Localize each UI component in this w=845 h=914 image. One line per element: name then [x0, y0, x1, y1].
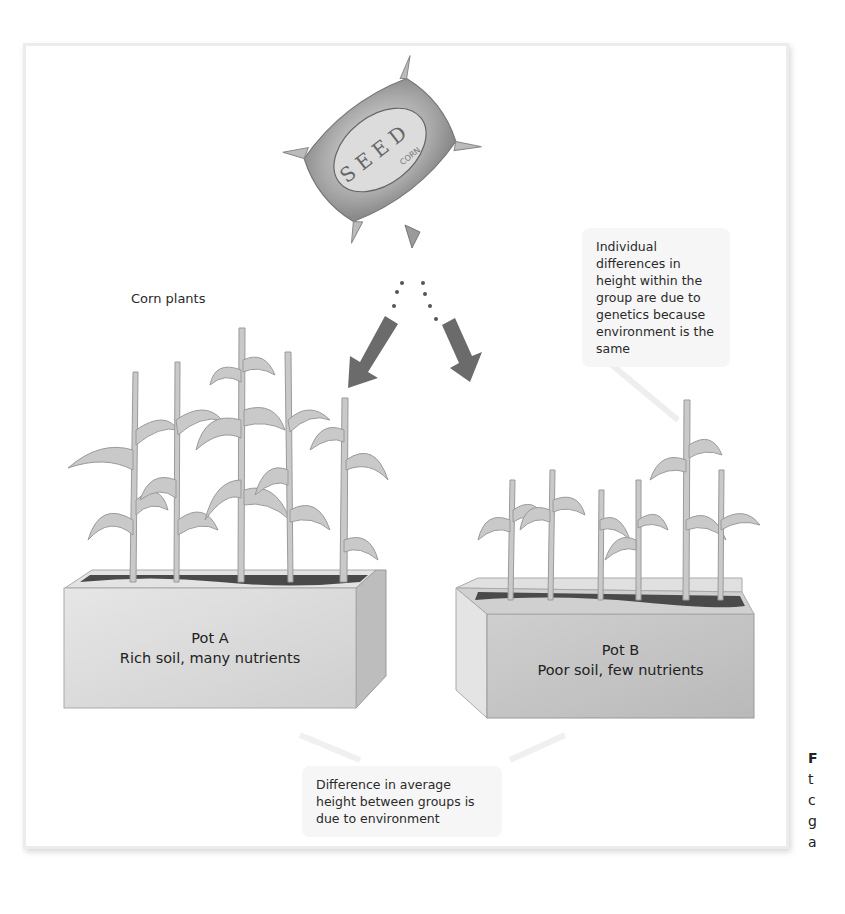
arrow-left-icon — [348, 316, 398, 388]
figure-caption-fragment: F t c g a — [808, 748, 818, 853]
seed-trail — [392, 281, 438, 321]
environment-callout: Difference in average height between gro… — [302, 766, 502, 837]
arrow-right-icon — [442, 318, 482, 382]
genetics-callout: Individual differences in height within … — [582, 228, 730, 367]
pot-a-name: Pot A — [64, 628, 356, 648]
seed-bag-icon: S E E D CORN — [281, 54, 481, 247]
pot-a-description: Rich soil, many nutrients — [64, 648, 356, 668]
caption-line-1: t — [808, 769, 818, 790]
caption-line-4: a — [808, 832, 818, 853]
pot-b-description: Poor soil, few nutrients — [487, 660, 754, 680]
caption-line-0: F — [808, 750, 818, 766]
corn-plants-label: Corn plants — [131, 290, 205, 307]
corn-plants-b — [478, 400, 760, 600]
corn-plants-a — [68, 328, 388, 582]
pot-b-label: Pot B Poor soil, few nutrients — [487, 640, 754, 680]
caption-line-2: c — [808, 790, 818, 811]
caption-line-3: g — [808, 811, 818, 832]
pot-a-label: Pot A Rich soil, many nutrients — [64, 628, 356, 668]
pot-b-name: Pot B — [487, 640, 754, 660]
